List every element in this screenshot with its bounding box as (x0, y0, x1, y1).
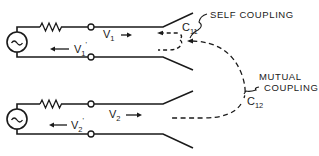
svg-text:V1: V1 (103, 28, 115, 43)
arrow-right-icon (126, 113, 142, 118)
mutual-coupling-path (172, 41, 245, 118)
resistor-icon (40, 23, 88, 31)
self-coupling-leader (190, 14, 207, 38)
line-2-top-conductor (94, 91, 193, 104)
ac-source-icon (7, 32, 27, 52)
terminal-1-top (88, 24, 94, 30)
coupled-lines-diagram: V1 V1' V2 V2' (0, 0, 319, 156)
v1-forward-label: V1 (103, 28, 115, 43)
v2-reflected-label: V2' (71, 116, 85, 134)
terminal-2-bottom (88, 131, 94, 137)
terminal-1-bottom (88, 54, 94, 60)
self-coupling-arrowhead-icon (157, 31, 163, 35)
arrow-left-icon (49, 123, 67, 128)
c12-label: C12 (247, 95, 263, 110)
svg-text:V2: V2 (109, 108, 121, 123)
svg-text:C12: C12 (247, 95, 263, 110)
self-coupling-label: SELF COUPLING (210, 9, 294, 20)
mutual-coupling-leader (244, 87, 259, 94)
svg-text:C11: C11 (182, 21, 198, 36)
line-2-circuit (7, 91, 193, 148)
source-2-top-lead (17, 104, 40, 109)
v2-forward-label: V2 (109, 108, 121, 123)
line-1-top-conductor (94, 13, 193, 27)
c11-label: C11 (182, 21, 198, 36)
svg-text:V2': V2' (71, 116, 85, 134)
line-1-circuit (7, 13, 193, 70)
v1-reflected-label: V1' (74, 40, 88, 58)
terminal-2-top (88, 101, 94, 107)
svg-text:V1': V1' (74, 40, 88, 58)
line-1-bottom-conductor (94, 57, 193, 70)
ac-source-icon (7, 109, 27, 129)
resistor-icon (40, 100, 88, 108)
line-2-bottom-conductor (94, 134, 193, 148)
mutual-coupling-label-line1: MUTUAL (259, 71, 302, 82)
arrow-right-icon (121, 33, 132, 38)
mutual-coupling-arrowhead-icon (187, 39, 193, 44)
self-coupling-path (158, 33, 182, 50)
mutual-coupling-label-line2: COUPLING (264, 82, 318, 93)
arrow-left-icon (50, 47, 69, 52)
source-1-top-lead (17, 27, 40, 32)
